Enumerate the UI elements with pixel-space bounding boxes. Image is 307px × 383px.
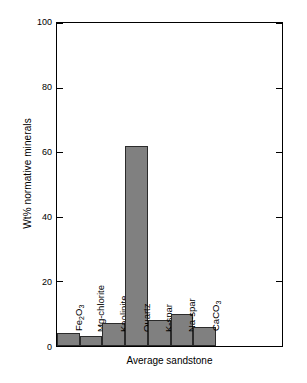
bar-cell: Mg-chlorite [80,23,103,346]
bar-Fe2O3 [57,333,80,346]
y-tick-right-0 [276,346,282,347]
y-tick-label-40: 40 [12,213,52,222]
bar-cell: CaCO3 [193,23,216,346]
plot-area: Fe2O3Mg-chloriteKaoliniteQuartzK-sparNa-… [56,22,283,347]
bar-cell: K-spar [148,23,171,346]
y-tick-right-20 [276,281,282,282]
chart-figure: Wt% normative minerals Fe2O3Mg-chloriteK… [0,0,307,383]
bar-series: Fe2O3Mg-chloriteKaoliniteQuartzK-sparNa-… [57,23,216,346]
y-tick-label-80: 80 [12,83,52,92]
bar-label-CaCO3: CaCO3 [210,301,221,335]
y-tick-right-100 [276,23,282,24]
y-tick-label-0: 0 [12,343,52,352]
x-axis-title: Average sandstone [56,355,283,366]
y-tick-label-20: 20 [12,278,52,287]
bar-cell: Na-spar [171,23,194,346]
bar-Mg-chlorite [80,336,103,346]
y-tick-right-60 [276,152,282,153]
y-tick-label-100: 100 [12,18,52,27]
y-tick-right-40 [276,217,282,218]
y-tick-0 [57,346,63,347]
y-axis-title: Wt% normative minerals [14,0,40,347]
bar-cell: Kaolinite [102,23,125,346]
y-tick-right-80 [276,88,282,89]
bar-cell: Fe2O3 [57,23,80,346]
y-tick-label-60: 60 [12,148,52,157]
bar-cell: Quartz [125,23,148,346]
